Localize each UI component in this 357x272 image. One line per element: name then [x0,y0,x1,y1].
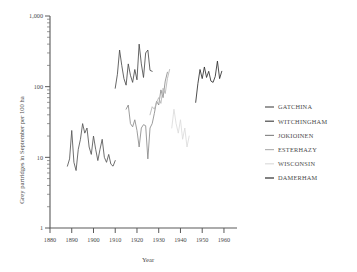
legend-label-jokioinen: JOKIOINEN [278,132,314,139]
y-tick-label: 1 [40,224,43,231]
x-tick-label: 1960 [218,236,230,243]
y-tick-label: 10 [37,154,43,161]
x-tick-label: 1920 [131,236,143,243]
y-axis-title: Grey partridges in September per 100 ha [18,96,25,203]
x-tick-label: 1890 [66,236,78,243]
x-tick-label: 1910 [109,236,121,243]
legend-label-gatchina: GATCHINA [278,103,312,110]
x-tick-label: 1880 [44,236,56,243]
series-line-witchingham [115,44,152,88]
series-line-damerham [196,61,222,102]
x-axis-title: Year [142,256,155,263]
y-tick-label: 1,000 [29,12,43,19]
series-line-gatchina [67,124,115,171]
axis-frame [50,16,237,228]
series-line-wisconsin [172,109,189,147]
chart-axes: 1101001,00018801890190019101920193019401… [29,12,237,243]
series-line-jokioinen [126,72,167,159]
x-tick-label: 1900 [87,236,99,243]
legend-label-damerham: DAMERHAM [278,174,318,181]
legend-label-witchingham: WITCHINGHAM [278,118,327,125]
x-tick-label: 1940 [174,236,186,243]
partridge-density-chart: 1101001,00018801890190019101920193019401… [0,0,357,272]
legend-label-wisconsin: WISCONSIN [278,160,315,167]
x-tick-label: 1950 [196,236,208,243]
y-tick-label: 100 [34,83,43,90]
chart-series-group [67,44,221,170]
x-tick-label: 1930 [153,236,165,243]
chart-legend: GATCHINAWITCHINGHAMJOKIOINENESTERHAZYWIS… [265,103,327,181]
legend-label-esterhazy: ESTERHAZY [278,146,317,153]
